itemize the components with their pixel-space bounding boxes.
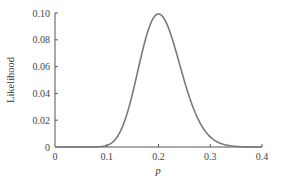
y-tick-label: 0.06 <box>33 61 51 72</box>
y-axis-label: Likelihood <box>5 56 16 103</box>
x-tick-label: 0 <box>53 151 58 162</box>
likelihood-curve <box>55 14 262 147</box>
y-tick-label: 0 <box>45 142 50 153</box>
y-tick-label: 0.04 <box>33 88 51 99</box>
y-tick-label: 0.08 <box>33 34 51 45</box>
y-axis-ticks: 00.020.040.060.080.10 <box>33 8 59 153</box>
x-tick-label: 0.1 <box>101 151 114 162</box>
likelihood-chart: 00.020.040.060.080.10 00.10.20.30.4 p Li… <box>0 0 284 179</box>
x-tick-label: 0.4 <box>256 151 269 162</box>
x-tick-label: 0.2 <box>152 151 165 162</box>
x-tick-label: 0.3 <box>204 151 217 162</box>
y-tick-label: 0.02 <box>33 115 51 126</box>
y-tick-label: 0.10 <box>33 8 51 19</box>
x-axis-label: p <box>154 165 160 176</box>
